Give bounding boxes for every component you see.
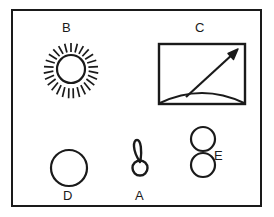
label-d: D: [63, 189, 73, 202]
label-b: B: [62, 21, 71, 34]
outer-frame: [11, 9, 262, 207]
label-c: C: [195, 21, 205, 34]
label-a: A: [135, 189, 144, 202]
figure-canvas: B C D A E: [0, 0, 274, 217]
label-e: E: [214, 149, 223, 162]
